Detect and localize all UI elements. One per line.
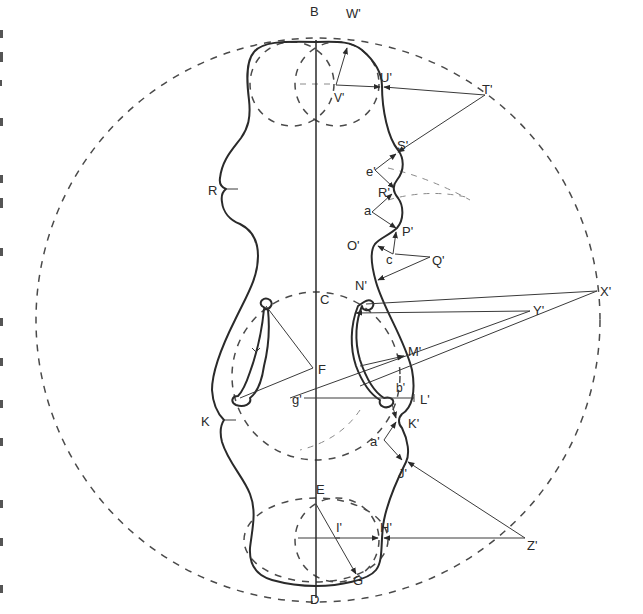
- label-I: I': [336, 520, 342, 535]
- label-U: U': [380, 70, 392, 85]
- label-M: M': [408, 344, 421, 359]
- label-G: G: [353, 573, 363, 588]
- label-S: S': [397, 138, 408, 153]
- label-R-prime: R': [378, 185, 390, 200]
- label-B: B: [310, 4, 319, 19]
- label-e: e': [366, 164, 376, 179]
- label-L: L': [420, 392, 430, 407]
- label-F: F: [318, 362, 326, 377]
- label-K: K: [201, 414, 210, 429]
- label-Z: Z': [527, 538, 537, 553]
- label-Q: Q': [432, 253, 445, 268]
- label-C: C: [320, 292, 329, 307]
- label-P: P': [402, 224, 413, 239]
- label-a-prime: a': [370, 434, 380, 449]
- label-c: c: [386, 252, 393, 267]
- label-W: W': [346, 6, 361, 21]
- label-X: X': [600, 284, 611, 299]
- top-circle-left: [250, 42, 334, 126]
- label-R: R: [208, 183, 217, 198]
- label-g: g': [292, 392, 302, 407]
- right-body-outline: [316, 42, 414, 586]
- label-D: D: [310, 592, 319, 607]
- label-Y: Y': [533, 303, 544, 318]
- label-T: T': [482, 82, 492, 97]
- left-margin-text-fragments: [0, 30, 3, 593]
- label-V: V': [334, 91, 344, 105]
- label-K-prime: K': [408, 416, 419, 431]
- right-f-hole: [352, 300, 394, 407]
- label-E: E: [316, 482, 325, 497]
- label-O: O': [347, 238, 360, 253]
- violin-construction-diagram: B W' U' T' V' S' e' R' a P' O' c Q' N' R…: [0, 0, 643, 614]
- large-construction-circle: [36, 38, 600, 602]
- label-N: N': [355, 278, 367, 293]
- label-a: a: [364, 203, 372, 218]
- label-J: J': [398, 466, 407, 481]
- label-H: H': [380, 520, 392, 535]
- label-b: b': [396, 381, 405, 395]
